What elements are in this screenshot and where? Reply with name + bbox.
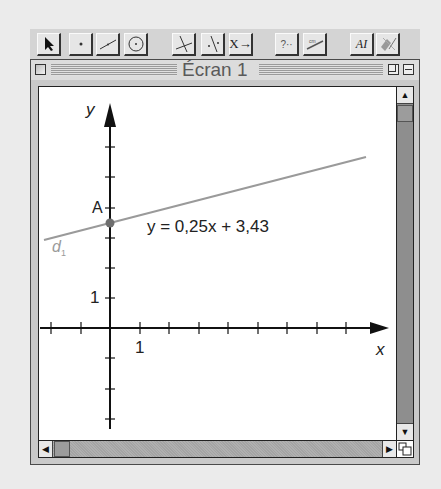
arrow-left-icon: ◀ — [42, 444, 49, 454]
point-a[interactable] — [106, 219, 115, 228]
graph-svg — [39, 87, 397, 441]
line-equation: y = 0,25x + 3,43 — [147, 217, 269, 237]
scroll-down-button[interactable]: ▼ — [397, 423, 413, 440]
resize-icon — [397, 441, 413, 457]
line-icon — [99, 36, 117, 52]
arrow-down-icon: ▼ — [401, 427, 410, 437]
display-tool-button[interactable] — [376, 33, 400, 56]
collapse-box[interactable] — [403, 64, 414, 75]
arrow-right-icon: ▶ — [386, 444, 393, 454]
vertical-scroll-thumb[interactable] — [397, 105, 413, 122]
transform-tool-button[interactable]: X→ — [229, 33, 253, 56]
x-axis-label: x — [376, 340, 385, 360]
screen-window: Écran 1 — [30, 59, 420, 465]
resize-grow-box[interactable] — [397, 441, 414, 458]
circle-icon — [127, 35, 145, 53]
title-bar[interactable]: Écran 1 — [31, 60, 419, 80]
window-title: Écran 1 — [179, 60, 250, 80]
measure-tool-button[interactable]: cm — [303, 33, 327, 56]
line-d1-label: d1 — [52, 238, 66, 258]
point-tool-button[interactable] — [69, 33, 93, 56]
y-axis-label: y — [86, 100, 95, 120]
arrow-up-icon: ▲ — [401, 90, 410, 100]
point-a-label: A — [92, 199, 103, 217]
symmetry-tool-button[interactable] — [201, 33, 225, 56]
y-unit-label: 1 — [90, 288, 99, 308]
check-property-tool-button[interactable]: ?·· — [275, 33, 299, 56]
perpendicular-icon — [175, 35, 193, 53]
arrow-pointer-icon — [42, 36, 56, 52]
x-axis-arrow-icon — [370, 322, 389, 334]
measure-icon: cm — [306, 36, 324, 52]
scroll-right-button[interactable]: ▶ — [382, 441, 396, 457]
text-tool-button[interactable]: AI — [350, 33, 374, 56]
close-box[interactable] — [35, 64, 46, 75]
line-tool-button[interactable] — [96, 33, 120, 56]
question-points-icon: ?·· — [280, 39, 292, 50]
toolbar: X→ ?·· cm AI — [30, 29, 420, 60]
svg-text:cm: cm — [309, 38, 316, 44]
pointer-tool-button[interactable] — [37, 33, 61, 56]
perpendicular-tool-button[interactable] — [172, 33, 196, 56]
circle-tool-button[interactable] — [124, 33, 148, 56]
title-stripes-left — [51, 64, 177, 76]
vertical-scrollbar[interactable]: ▲ ▼ — [397, 86, 414, 441]
zoom-box[interactable] — [388, 64, 399, 75]
drawing-canvas[interactable]: y x A d1 y = 0,25x + 3,43 1 1 — [38, 86, 397, 441]
scroll-left-button[interactable]: ◀ — [39, 441, 53, 457]
horizontal-scroll-thumb[interactable] — [54, 441, 70, 457]
text-label-icon: AI — [356, 37, 367, 52]
title-stripes-right — [259, 64, 383, 76]
paint-icon — [379, 35, 397, 53]
horizontal-scrollbar[interactable]: ◀ ▶ — [38, 441, 397, 458]
point-icon — [73, 36, 89, 52]
x-arrow-icon: X→ — [229, 36, 251, 52]
x-unit-label: 1 — [135, 338, 144, 358]
scroll-up-button[interactable]: ▲ — [397, 87, 413, 104]
symmetry-icon — [204, 35, 222, 53]
y-axis-arrow-icon — [104, 103, 116, 127]
